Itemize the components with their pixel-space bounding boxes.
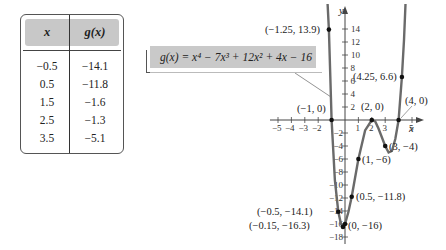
point-label: (4.25, 6.6) xyxy=(353,71,397,83)
x-axis-arrow-icon xyxy=(416,117,424,123)
point-marker xyxy=(327,27,332,32)
point-label: (−0.5, −14.1) xyxy=(257,206,313,218)
svg-text:1: 1 xyxy=(356,123,361,133)
point-label: (0, −16) xyxy=(348,220,382,232)
function-graph: y x −5−4−3 −2 123 5 ​ 141210 8642 −2−4−6… xyxy=(0,0,446,250)
point-marker xyxy=(343,222,348,227)
point-marker xyxy=(370,118,375,123)
point-marker xyxy=(349,194,354,199)
formula-leader-line xyxy=(295,73,331,97)
svg-text:−2: −2 xyxy=(333,128,343,138)
point-marker xyxy=(383,144,388,149)
svg-text:−4: −4 xyxy=(285,123,295,133)
point-label: (0.5, −11.8) xyxy=(356,191,406,203)
svg-text:2: 2 xyxy=(351,102,356,112)
point-label: (4, 0) xyxy=(405,95,428,107)
formula-underline xyxy=(150,72,322,73)
point-marker xyxy=(396,118,401,123)
point-label: (1, −6) xyxy=(362,154,391,166)
point-label: (3, −4) xyxy=(389,141,418,153)
y-axis-label: y xyxy=(338,5,344,16)
point-label: (2, 0) xyxy=(361,101,384,113)
point-marker xyxy=(336,209,341,214)
point-marker xyxy=(329,118,334,123)
svg-text:−2: −2 xyxy=(312,123,322,133)
svg-text:10: 10 xyxy=(351,50,361,60)
svg-text:5: 5 xyxy=(409,123,414,133)
svg-text:−4: −4 xyxy=(333,141,343,151)
svg-text:−5: −5 xyxy=(272,123,282,133)
svg-text:−18: −18 xyxy=(329,232,344,242)
svg-text:3: 3 xyxy=(383,123,388,133)
point-label: (−1, 0) xyxy=(297,103,326,115)
function-formula: g(x) = x⁴ − 7x³ + 12x² + 4x − 16 xyxy=(150,46,316,68)
point-marker xyxy=(400,75,405,80)
svg-text:−3: −3 xyxy=(299,123,309,133)
point-leader-line xyxy=(401,106,412,118)
point-label: (−0.15, −16.3) xyxy=(249,220,310,232)
point-marker xyxy=(356,157,361,162)
x-tick-labels: −5−4−3 −2 123 5 xyxy=(272,123,414,133)
svg-text:12: 12 xyxy=(351,37,360,47)
svg-text:4: 4 xyxy=(351,89,356,99)
svg-text:14: 14 xyxy=(351,24,361,34)
point-label: (−1.25, 13.9) xyxy=(265,24,320,36)
